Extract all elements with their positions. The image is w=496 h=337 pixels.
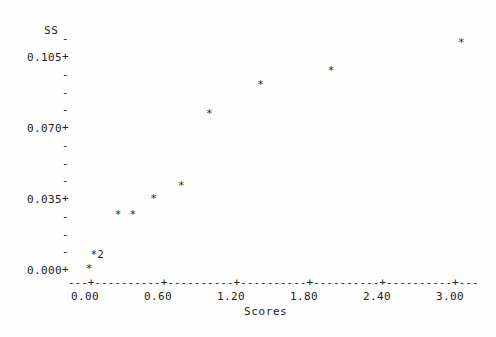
y-axis-tick-label: 0.070 — [0, 122, 62, 135]
data-point: * — [328, 65, 335, 76]
x-axis-tick-label: 0.60 — [128, 290, 188, 303]
x-axis-tick-label: 1.20 — [201, 290, 261, 303]
y-axis-minor-tick: - — [62, 175, 69, 186]
x-axis-tick-label: 1.80 — [274, 290, 334, 303]
data-point: * — [458, 37, 465, 48]
y-axis-major-tick: + — [62, 51, 69, 62]
y-axis-tick-label: 0.035 — [0, 193, 62, 206]
y-axis-major-tick: + — [62, 193, 69, 204]
data-point: * — [115, 209, 122, 220]
data-point: * — [86, 263, 93, 274]
x-axis-title: Scores — [244, 305, 287, 318]
y-axis-tick-label: 0.000 — [0, 264, 62, 277]
y-axis-minor-tick: - — [62, 104, 69, 115]
data-point: * — [206, 108, 213, 119]
y-axis-minor-tick: - — [62, 211, 69, 222]
y-axis-title: SS — [44, 24, 58, 37]
y-axis-minor-tick: - — [62, 229, 69, 240]
x-axis-line: ---+----------+----------+----------+---… — [68, 277, 479, 288]
scatterplot-figure: SS 0.105+0.070+0.035+0.000+---------- **… — [0, 0, 496, 337]
y-axis-major-tick: + — [62, 122, 69, 133]
x-axis-tick-label: 0.00 — [55, 290, 115, 303]
y-axis-minor-tick: - — [62, 33, 69, 44]
x-axis-tick-label: 3.00 — [420, 290, 480, 303]
y-axis-minor-tick: - — [62, 69, 69, 80]
data-point-cluster: *2 — [91, 249, 104, 260]
y-axis-major-tick: + — [62, 264, 69, 275]
y-axis-minor-tick: - — [62, 140, 69, 151]
y-axis-minor-tick: - — [62, 246, 69, 257]
y-axis-minor-tick: - — [62, 87, 69, 98]
data-point: * — [257, 79, 264, 90]
y-axis-minor-tick: - — [62, 158, 69, 169]
x-axis-tick-label: 2.40 — [347, 290, 407, 303]
y-axis-tick-label: 0.105 — [0, 51, 62, 64]
data-point: * — [178, 180, 185, 191]
data-point: * — [129, 209, 136, 220]
data-point: * — [150, 193, 157, 204]
